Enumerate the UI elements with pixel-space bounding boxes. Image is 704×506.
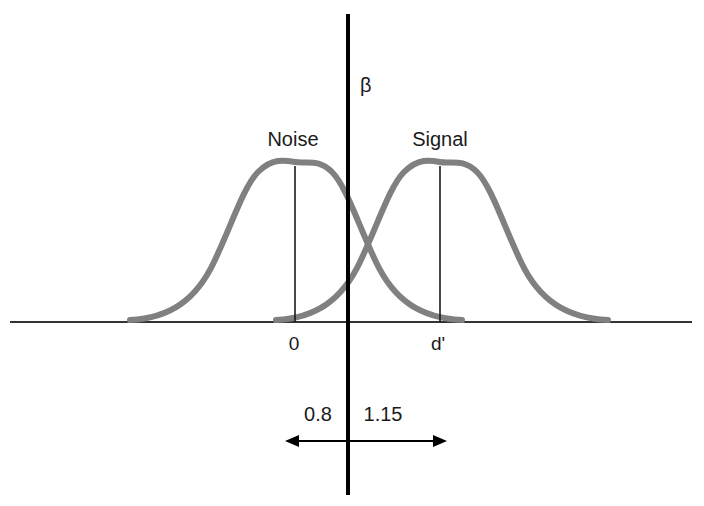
ratio-right-value: 1.15 [364, 403, 403, 425]
noise-distribution-curve [130, 161, 462, 320]
tick-label-dprime: d' [431, 333, 445, 354]
signal-detection-figure: β Noise Signal 0 d' 0.8 1.15 [0, 0, 704, 506]
ratio-left-value: 0.8 [304, 403, 332, 425]
criterion-beta-label: β [360, 74, 372, 96]
signal-curve-label: Signal [412, 128, 468, 150]
signal-distribution-curve [276, 161, 608, 320]
tick-label-zero: 0 [289, 333, 300, 354]
noise-curve-label: Noise [267, 128, 318, 150]
sdt-diagram-canvas: β Noise Signal 0 d' 0.8 1.15 [0, 0, 704, 506]
ratio-arrow-right-head [433, 435, 447, 447]
ratio-arrow-left-head [285, 435, 299, 447]
